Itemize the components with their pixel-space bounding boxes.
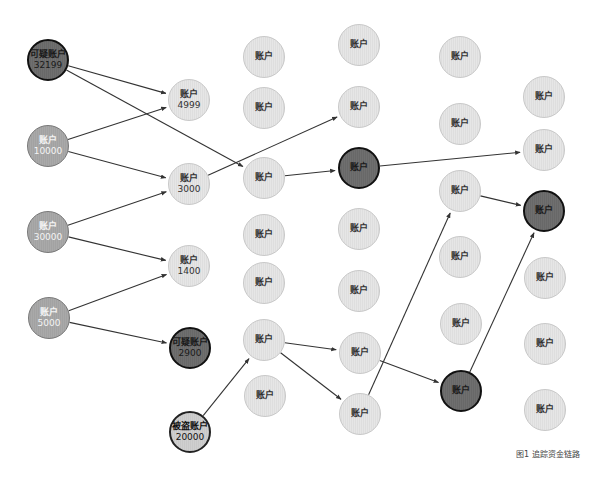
account-node: 可疑账户2900 [169, 327, 211, 369]
account-label: 账户 [452, 318, 470, 329]
flow-arrow [66, 70, 243, 166]
account-label: 账户 [351, 408, 369, 419]
flow-arrow [281, 353, 341, 400]
account-node: 账户 [439, 103, 481, 145]
account-amount: 2900 [179, 348, 202, 359]
account-label: 被盗账户 [172, 421, 208, 432]
account-node: 账户 [338, 86, 380, 128]
flow-arrow [68, 192, 166, 226]
account-label: 账户 [255, 51, 273, 62]
account-node: 账户 [439, 170, 481, 212]
account-amount: 20000 [176, 432, 205, 443]
account-amount: 32199 [34, 60, 63, 71]
flow-arrow [369, 213, 451, 395]
account-node: 账户 [439, 36, 481, 78]
account-node: 账户 [243, 214, 285, 256]
flow-arrow [380, 360, 439, 382]
account-node: 账户 [243, 87, 285, 129]
account-node: 账户 [338, 270, 380, 312]
account-node: 账户 [440, 370, 482, 412]
account-label: 账户 [180, 255, 198, 266]
account-label: 可疑账户 [30, 49, 66, 60]
account-node: 账户 [523, 190, 565, 232]
account-label: 账户 [255, 172, 273, 183]
account-node: 账户 [244, 375, 286, 417]
account-label: 账户 [350, 39, 368, 50]
account-node: 账户 [339, 393, 381, 435]
account-label: 账户 [255, 277, 273, 288]
account-amount: 3000 [178, 184, 201, 195]
flow-arrow [70, 322, 167, 343]
account-label: 账户 [451, 185, 469, 196]
account-node: 账户 [439, 236, 481, 278]
flow-arrow [380, 152, 520, 166]
flow-arrow [285, 343, 336, 350]
flow-arrow [285, 171, 335, 176]
account-node: 账户 [440, 303, 482, 345]
account-label: 账户 [451, 118, 469, 129]
account-node: 可疑账户32199 [27, 39, 69, 81]
account-label: 账户 [350, 162, 368, 173]
account-label: 账户 [39, 135, 57, 146]
account-label: 账户 [350, 223, 368, 234]
account-label: 账户 [536, 404, 554, 415]
account-node: 账户 [524, 323, 566, 365]
account-node: 账户 [523, 76, 565, 118]
flow-arrow [203, 359, 249, 416]
account-node: 账户 [338, 24, 380, 66]
account-node: 账户5000 [28, 297, 70, 339]
account-label: 账户 [255, 229, 273, 240]
account-label: 账户 [40, 307, 58, 318]
account-node: 账户 [524, 257, 566, 299]
account-node: 账户4999 [168, 79, 210, 121]
account-label: 账户 [256, 390, 274, 401]
flow-arrow [68, 107, 166, 139]
account-label: 可疑账户 [172, 337, 208, 348]
account-node: 账户 [339, 332, 381, 374]
account-label: 账户 [535, 144, 553, 155]
account-label: 账户 [451, 51, 469, 62]
account-amount: 4999 [178, 100, 201, 111]
account-label: 账户 [451, 251, 469, 262]
account-label: 账户 [536, 338, 554, 349]
account-node: 账户30000 [27, 211, 69, 253]
account-amount: 1400 [178, 266, 201, 277]
account-node: 账户 [524, 389, 566, 431]
account-node: 被盗账户20000 [169, 411, 211, 453]
account-label: 账户 [535, 205, 553, 216]
account-node: 账户 [243, 262, 285, 304]
account-label: 账户 [180, 173, 198, 184]
account-amount: 30000 [34, 232, 63, 243]
account-node: 账户 [523, 129, 565, 171]
account-label: 账户 [39, 221, 57, 232]
account-label: 账户 [535, 91, 553, 102]
account-node: 账户10000 [27, 125, 69, 167]
account-label: 账户 [180, 89, 198, 100]
flow-arrow [480, 196, 520, 206]
account-node: 账户 [243, 36, 285, 78]
figure-caption: 图1 追踪资金链路 [516, 448, 580, 459]
account-node: 账户 [338, 208, 380, 250]
account-node: 账户 [243, 157, 285, 199]
account-label: 账户 [536, 272, 554, 283]
account-amount: 10000 [34, 146, 63, 157]
account-label: 账户 [350, 285, 368, 296]
fund-flow-diagram [0, 0, 599, 483]
account-node: 账户 [243, 319, 285, 361]
flow-arrow [68, 152, 166, 178]
account-node: 账户 [338, 147, 380, 189]
account-label: 账户 [255, 102, 273, 113]
account-label: 账户 [350, 101, 368, 112]
account-label: 账户 [351, 347, 369, 358]
flow-arrow [68, 237, 165, 261]
account-label: 账户 [255, 334, 273, 345]
account-amount: 5000 [38, 318, 61, 329]
account-label: 账户 [452, 385, 470, 396]
account-node: 账户1400 [168, 245, 210, 287]
account-node: 账户3000 [168, 163, 210, 205]
flow-arrow [69, 274, 167, 310]
